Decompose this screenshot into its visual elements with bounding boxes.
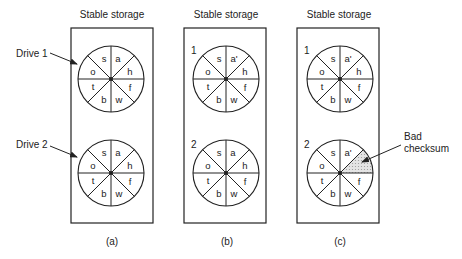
sector-label: s [217, 147, 222, 158]
sector-label: t [321, 175, 324, 186]
panel-b: Stable storage 1 s a' h f w b t o 2 [184, 9, 266, 247]
drive-1-arrow-icon [50, 53, 77, 64]
drive-1-disk: s a' h f w b t o [307, 46, 373, 112]
sector-label: b [330, 94, 335, 105]
stable-storage-diagram: Stable storage s a h f w b t o Drive 1 [0, 0, 462, 259]
panel-c: Stable storage 1 s a' h f w b t o 2 [297, 9, 449, 247]
drive-1-label: Drive 1 [16, 48, 48, 59]
sector-label: o [319, 66, 324, 77]
storage-box [71, 28, 153, 223]
sector-label: t [207, 81, 210, 92]
panel-title: Stable storage [194, 9, 259, 20]
drive-2-label: 2 [304, 139, 310, 150]
sector-label: b [101, 94, 106, 105]
panel-caption: (b) [221, 236, 233, 247]
sector-label: h [242, 160, 247, 171]
drive-1-disk: s a h f w b t o [78, 46, 144, 112]
sector-label: w [344, 188, 352, 199]
sector-label: h [356, 66, 361, 77]
drive-1-label: 1 [191, 45, 197, 56]
sector-label: h [242, 66, 247, 77]
bad-checksum-label-line2: checksum [404, 143, 449, 154]
bad-checksum-arrow-icon [362, 145, 401, 162]
sector-label: f [129, 82, 132, 93]
sector-label: a' [344, 53, 351, 64]
sector-label: w [230, 188, 238, 199]
storage-box [184, 28, 266, 223]
sector-label: f [358, 82, 361, 93]
sector-label: b [216, 94, 221, 105]
sector-label: a' [344, 147, 351, 158]
drive-2-disk: s a h f w b t o [78, 140, 144, 206]
sector-label: t [207, 175, 210, 186]
panel-title: Stable storage [307, 9, 372, 20]
sector-label: t [92, 175, 95, 186]
sector-label: b [216, 188, 221, 199]
drive-2-arrow-icon [50, 146, 77, 157]
panel-caption: (a) [106, 236, 118, 247]
sector-label: o [90, 66, 95, 77]
sector-label: f [244, 82, 247, 93]
sector-label: o [90, 160, 95, 171]
sector-label: f [358, 176, 361, 187]
sector-label: w [115, 94, 123, 105]
sector-label: a [115, 53, 121, 64]
sector-label: w [230, 94, 238, 105]
sector-label: t [92, 81, 95, 92]
panel-title: Stable storage [80, 9, 145, 20]
drive-1-disk: s a' h f w b t o [193, 46, 259, 112]
sector-label: o [205, 66, 210, 77]
drive-1-label: 1 [304, 45, 310, 56]
sector-label: a [230, 147, 236, 158]
sector-label: s [102, 147, 107, 158]
sector-label: f [129, 176, 132, 187]
sector-label: b [330, 188, 335, 199]
sector-label: t [321, 81, 324, 92]
sector-label: h [127, 160, 132, 171]
drive-2-disk: s a' f w b t o [307, 140, 373, 206]
sector-label: s [331, 147, 336, 158]
drive-2-label: Drive 2 [16, 139, 48, 150]
sector-label: b [101, 188, 106, 199]
storage-box [297, 28, 379, 223]
panel-caption: (c) [334, 236, 346, 247]
panel-a: Stable storage s a h f w b t o Drive 1 [16, 9, 153, 247]
sector-label: f [244, 176, 247, 187]
sector-label: a [115, 147, 121, 158]
sector-label: s [331, 53, 336, 64]
bad-checksum-label-line1: Bad [404, 131, 422, 142]
sector-label: a' [230, 53, 237, 64]
sector-label: w [115, 188, 123, 199]
drive-2-label: 2 [191, 139, 197, 150]
sector-label: s [102, 53, 107, 64]
sector-label: o [319, 160, 324, 171]
sector-label: o [205, 160, 210, 171]
sector-label: h [127, 66, 132, 77]
drive-2-disk: s a h f w b t o [193, 140, 259, 206]
sector-label: w [344, 94, 352, 105]
sector-label: s [217, 53, 222, 64]
